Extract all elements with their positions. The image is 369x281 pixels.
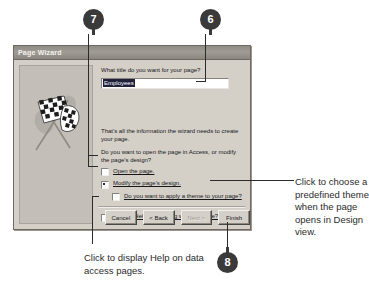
callout-badge-6: 6: [200, 9, 221, 30]
radio-modify-label: Modify the page's design.: [113, 180, 181, 187]
callout-badge-7-number: 7: [90, 14, 96, 25]
page-title-input[interactable]: Employees: [101, 78, 229, 89]
finish-button[interactable]: Finish: [218, 210, 250, 225]
next-button: Next >: [181, 210, 213, 225]
callout-badge-8-number: 8: [224, 257, 230, 268]
cancel-button-label: Cancel: [112, 215, 131, 221]
wizard-content: What title do you want for your page? Em…: [93, 60, 250, 229]
leader-line-help-vertical: [92, 196, 93, 244]
title-question-label: What title do you want for your page?: [101, 67, 243, 75]
leader-line-6-vertical: [205, 34, 206, 82]
leader-line-theme: [210, 180, 294, 181]
checkered-flags-icon: [24, 88, 88, 158]
dialog-titlebar[interactable]: Page Wizard: [14, 46, 250, 60]
checkbox-apply-theme[interactable]: Do you want to apply a theme to your pag…: [112, 193, 243, 202]
radio-open-icon: [101, 168, 109, 176]
leader-line-8-vertical: [227, 222, 228, 248]
back-button[interactable]: < Back: [143, 210, 175, 225]
leader-line-7-to-options: [88, 155, 98, 156]
radio-open-the-page[interactable]: Open the page.: [101, 168, 243, 177]
dialog-title: Page Wizard: [18, 49, 62, 56]
page-wizard-dialog: Page Wizard: [13, 45, 251, 230]
page-title-value: Employees: [103, 79, 135, 87]
figure-canvas: 7 6 8 Page Wizard: [0, 0, 369, 281]
wizard-question-paragraph: Do you want to open the page in Access, …: [101, 148, 241, 164]
leader-line-7-vertical: [88, 34, 89, 156]
next-button-label: Next >: [188, 215, 206, 221]
finish-button-label: Finish: [226, 215, 242, 221]
button-separator: [98, 206, 245, 208]
annotation-theme: Click to choose a predefined theme when …: [295, 176, 369, 239]
checkbox-theme-icon: [112, 193, 120, 201]
dialog-body: What title do you want for your page? Em…: [14, 60, 250, 229]
back-button-label: < Back: [149, 215, 168, 221]
callout-badge-6-number: 6: [207, 14, 213, 25]
wizard-illustration: [19, 65, 93, 224]
leader-line-help-to-checkbox: [92, 196, 99, 197]
callout-badge-7-group: 7: [83, 9, 104, 30]
radio-modify-design[interactable]: Modify the page's design.: [101, 180, 243, 189]
callout-badge-7: 7: [83, 9, 104, 30]
checkbox-theme-label: Do you want to apply a theme to your pag…: [124, 193, 242, 200]
cancel-button[interactable]: Cancel: [105, 210, 137, 225]
wizard-info-paragraph: That's all the information the wizard ne…: [101, 127, 241, 143]
leader-line-6-to-field: [196, 81, 206, 82]
callout-badge-8: 8: [217, 252, 238, 273]
callout-badge-6-group: 6: [200, 9, 221, 30]
radio-open-label: Open the page.: [113, 168, 154, 175]
callout-badge-8-group: 8: [217, 252, 238, 273]
radio-modify-icon: [101, 181, 109, 189]
annotation-help: Click to display Help on data access pag…: [84, 252, 224, 277]
leader-line-7-to-option2: [88, 166, 98, 167]
